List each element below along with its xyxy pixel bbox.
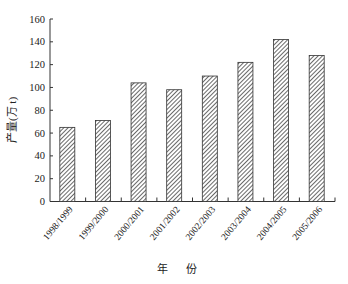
chart-canvas: 020406080100120140160 1998/19991999/2000… [0,0,348,284]
bar [238,62,253,201]
bar [95,121,110,202]
x-tick-labels: 1998/19991999/20002000/20012001/20022002… [41,204,324,242]
y-tick-label: 160 [29,14,45,25]
y-tick-label: 140 [29,36,45,47]
y-axis-label-text: 产量(万 t) [3,97,19,143]
x-tick-label: 2005/2006 [290,204,324,242]
y-tick-label: 40 [35,150,46,161]
x-tick-label: 2001/2002 [148,204,182,242]
y-tick-label: 120 [29,59,45,70]
bar [131,83,146,202]
bar [309,56,324,202]
y-tick-label: 60 [35,128,46,139]
bar [274,40,289,202]
bar [60,127,75,201]
x-tick-label: 2002/2003 [184,204,218,242]
x-tick-label: 1999/2000 [77,204,111,242]
x-tick-label: 2004/2005 [255,204,289,242]
x-tick-label: 2000/2001 [112,204,146,242]
bar [167,90,182,202]
y-tick-label: 80 [35,105,46,116]
y-tick-label: 20 [35,173,46,184]
x-tick-label: 2003/2004 [219,204,253,242]
bar-chart: 020406080100120140160 1998/19991999/2000… [0,0,348,284]
bar [202,76,217,201]
x-tick-label: 1998/1999 [41,204,75,242]
x-axis-label: 年 份 [0,260,348,276]
y-axis-label: 产量(万 t) [4,80,18,160]
y-tick-label: 100 [29,82,45,93]
y-tick-label: 0 [40,196,45,207]
bars [60,40,324,202]
